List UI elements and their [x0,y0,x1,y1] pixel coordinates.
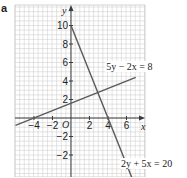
y-axis-label: y [61,5,67,16]
y-tick-label: −2 [57,150,69,161]
y-tick-label: 2 [62,94,68,105]
x-tick-label: 6 [124,120,130,131]
x-axis-arrow-icon [139,116,145,121]
y-tick-label: −2 [57,131,69,142]
x-tick-label: −2 [47,120,59,131]
origin-label: O [62,119,69,130]
y-axis-arrow-icon [69,5,74,11]
series-label-1: 5y − 2x = 8 [106,61,152,72]
y-tick-label: 6 [62,57,68,68]
series-label-2: 2y + 5x = 20 [121,158,172,169]
y-tick-label: 8 [62,39,68,50]
x-tick-label: 2 [87,120,93,131]
x-tick-label: −4 [28,120,40,131]
y-tick-label: 10 [57,20,69,31]
x-axis-label: x [140,121,146,132]
chart: −4−2246108642−2−2Oxy5y − 2x = 82y + 5x =… [0,0,187,177]
y-tick-label: 4 [62,76,68,87]
grid [15,5,145,177]
series-line-2 [71,26,134,178]
